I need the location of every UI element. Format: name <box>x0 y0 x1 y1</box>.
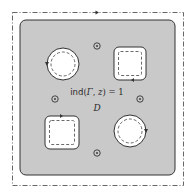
index-label: ind(Γ, z) = 1 <box>70 87 124 97</box>
outer-contour-arrow <box>96 11 100 15</box>
hole-square-top-right <box>114 47 146 82</box>
diagram-canvas: ind(Γ, z) = 1 D <box>0 0 193 195</box>
hole-square-bottom-left <box>45 114 79 149</box>
region-label: D <box>92 103 100 113</box>
